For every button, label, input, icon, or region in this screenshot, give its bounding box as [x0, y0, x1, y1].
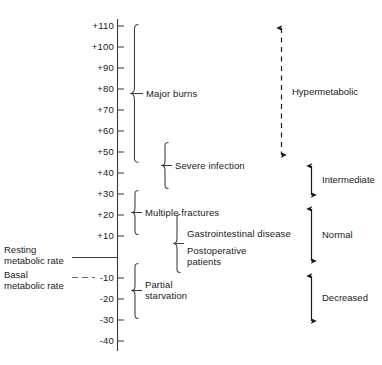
- brace-gi-postoperative: [174, 215, 185, 273]
- brace-multiple-fractures: [132, 191, 143, 235]
- y-tick-label-50: +50: [78, 147, 114, 157]
- category-label-partial-starvation-line1: Partial: [145, 279, 173, 291]
- y-axis-ticks: [118, 26, 125, 341]
- basal-metabolic-rate-label-line1: Basal: [4, 269, 28, 281]
- zone-label-normal: Normal: [322, 229, 353, 241]
- y-tick-label-100: +100: [78, 42, 114, 52]
- resting-metabolic-rate-label-line1: Resting: [4, 244, 36, 256]
- category-label-severe-infection: Severe infection: [175, 160, 245, 172]
- y-axis: [118, 19, 125, 351]
- y-tick-label-30: +30: [78, 189, 114, 199]
- basal-metabolic-rate-label-line2: metabolic rate: [4, 280, 64, 292]
- metabolic-rate-chart: +110 +100 +90 +80 +70 +60 +50 +40 +30 +2…: [0, 0, 382, 365]
- y-tick-label-110: +110: [78, 21, 114, 31]
- brace-major-burns: [131, 25, 144, 163]
- zone-label-intermediate: Intermediate: [322, 174, 375, 186]
- category-label-partial-starvation-line2: starvation: [145, 290, 187, 302]
- category-label-multiple-fractures: Multiple fractures: [145, 207, 219, 219]
- zone-label-hypermetabolic: Hypermetabolic: [292, 86, 358, 98]
- category-label-gastrointestinal-disease: Gastrointestinal disease: [187, 228, 291, 240]
- resting-metabolic-rate-label-line2: metabolic rate: [4, 255, 64, 267]
- category-label-postoperative-line2: patients: [187, 256, 221, 268]
- y-tick-label-70: +70: [78, 105, 114, 115]
- y-tick-label-40: +40: [78, 168, 114, 178]
- y-tick-label-80: +80: [78, 84, 114, 94]
- y-tick-label-neg10: -10: [78, 273, 114, 283]
- y-tick-label-10: +10: [78, 231, 114, 241]
- y-tick-label-neg40: -40: [78, 336, 114, 346]
- brace-partial-starvation: [132, 264, 143, 319]
- y-tick-label-neg20: -20: [78, 294, 114, 304]
- brace-severe-infection: [162, 143, 173, 189]
- y-tick-label-60: +60: [78, 126, 114, 136]
- category-label-postoperative-line1: Postoperative: [187, 245, 246, 257]
- y-tick-label-neg30: -30: [78, 315, 114, 325]
- category-label-major-burns: Major burns: [146, 88, 197, 100]
- zone-label-decreased: Decreased: [322, 292, 368, 304]
- y-tick-label-90: +90: [78, 63, 114, 73]
- y-tick-label-20: +20: [78, 210, 114, 220]
